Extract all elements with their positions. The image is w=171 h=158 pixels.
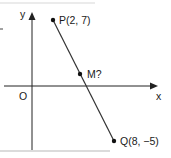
- point-q: [112, 139, 116, 143]
- y-axis-arrow-icon: [29, 12, 36, 20]
- x-axis-arrow-icon: [150, 83, 158, 90]
- point-q-label: Q(8, −5): [120, 135, 159, 147]
- point-m: [78, 72, 82, 76]
- y-axis-label: y: [20, 8, 26, 20]
- origin-label: O: [19, 90, 27, 102]
- point-p: [51, 18, 55, 22]
- point-m-label: M?: [87, 68, 102, 80]
- point-p-label: P(2, 7): [59, 14, 91, 26]
- x-axis-label: x: [156, 90, 162, 102]
- segment-pq: [53, 20, 114, 141]
- coordinate-diagram: y x O P(2, 7) M? Q(8, −5): [0, 0, 171, 158]
